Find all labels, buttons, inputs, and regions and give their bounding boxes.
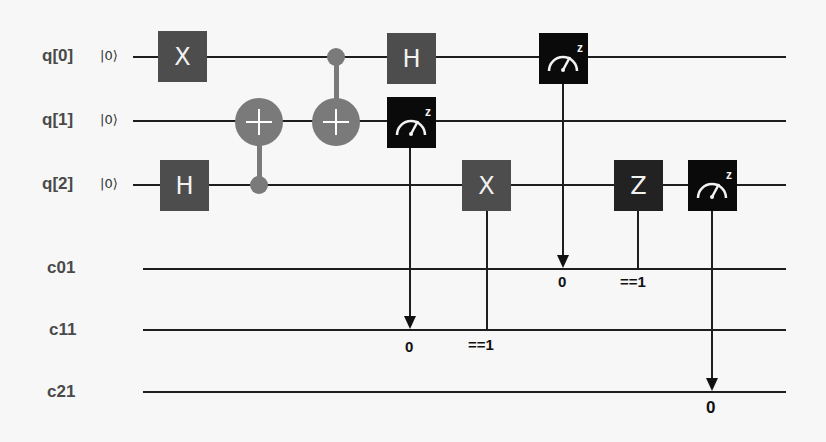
classical-label-c11: c11 [49,320,76,340]
measure-q0-line [562,82,564,256]
x-gate-cond-line [486,210,488,330]
cnot1-target-icon[interactable] [235,98,283,146]
classical-label-c01: c01 [47,258,75,278]
svg-text:z: z [425,105,431,119]
classical-wire-c21 [143,391,786,393]
measure-q0-arrow-icon [557,255,569,268]
cnot2-control-dot[interactable] [327,48,345,66]
measure-q1-line [409,146,411,318]
cnot2-target-icon[interactable] [312,98,360,146]
qubit-init-q2: |0⟩ [100,176,118,191]
z-gate-cond-line [637,210,639,269]
qubit-label-q2: q[2] [42,174,73,194]
classical-label-c21: c21 [47,382,75,402]
meter-icon: z [688,160,737,211]
qubit-init-q0: |0⟩ [100,48,118,63]
measure-q2[interactable]: z [688,160,737,211]
meter-icon: z [387,97,436,148]
z-gate-q2[interactable]: Z [614,160,663,211]
measure-q1[interactable]: z [387,97,436,148]
qubit-init-q1: |0⟩ [100,112,118,127]
svg-text:z: z [577,41,583,55]
classical-wire-c11 [143,329,786,331]
qubit-label-q0: q[0] [42,46,73,66]
measure-q0-result: 0 [558,273,566,290]
x-gate-condition: ==1 [468,336,494,353]
measure-q0[interactable]: z [539,33,588,84]
quantum-circuit-diagram: q[0] |0⟩ q[1] |0⟩ q[2] |0⟩ c01 c11 c21 X… [0,0,826,442]
measure-q1-arrow-icon [404,316,416,329]
qubit-wire-q0 [133,56,786,58]
x-gate-q2[interactable]: X [462,160,511,211]
h-gate-q0[interactable]: H [387,33,436,84]
measure-q2-arrow-icon [706,378,718,391]
cnot1-control-dot[interactable] [250,176,268,194]
x-gate-q0[interactable]: X [158,31,207,82]
z-gate-condition: ==1 [620,273,646,290]
measure-q2-line [711,210,713,380]
measure-q2-result: 0 [706,398,715,418]
qubit-wire-q1 [133,120,786,122]
h-gate-q2[interactable]: H [160,160,209,211]
measure-q1-result: 0 [405,338,413,355]
classical-wire-c01 [143,268,786,270]
meter-icon: z [539,33,588,84]
svg-text:z: z [726,168,732,182]
qubit-label-q1: q[1] [42,110,73,130]
